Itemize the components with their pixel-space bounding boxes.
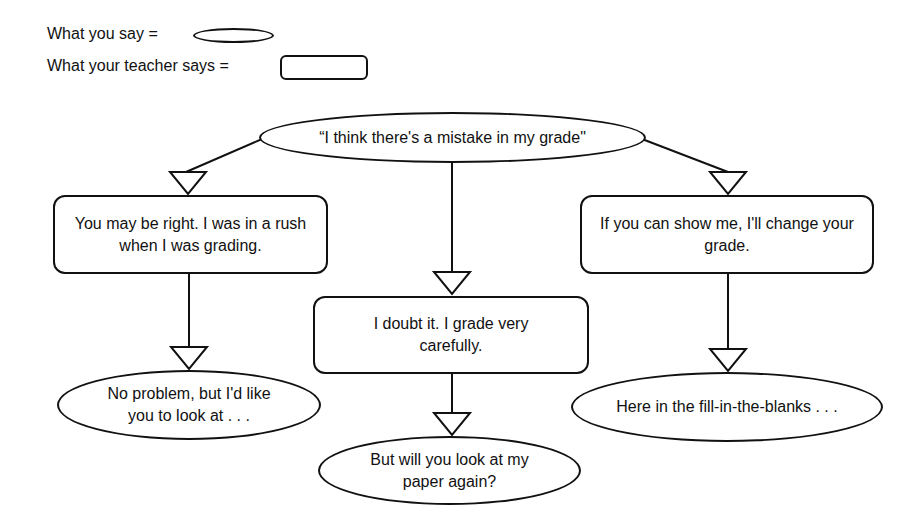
student-reply-right: Here in the fill-in-the-blanks . . .	[571, 372, 883, 442]
teacher-response-left: You may be right. I was in a rush when I…	[53, 195, 328, 274]
student-reply-left: No problem, but I'd like you to look at …	[57, 370, 321, 440]
student-reply-middle: But will you look at my paper again?	[318, 436, 581, 505]
legend-student-label: What you say =	[47, 25, 158, 43]
arrowhead-down-icon	[710, 172, 746, 194]
arrowhead-down-icon	[434, 272, 470, 294]
teacher-response-right: If you can show me, I'll change your gra…	[580, 195, 874, 274]
legend-rounded-rect-icon	[280, 55, 368, 80]
connector-root-right	[642, 139, 728, 172]
arrowhead-down-icon	[171, 347, 207, 369]
teacher-response-middle: I doubt it. I grade very carefully.	[313, 296, 589, 374]
root-student-statement: “I think there's a mistake in my grade"	[259, 112, 646, 163]
arrowhead-down-icon	[170, 172, 206, 194]
legend-ellipse-icon	[193, 28, 274, 43]
connector-root-left	[186, 139, 262, 172]
legend-teacher-label: What your teacher says =	[47, 57, 229, 75]
arrowhead-down-icon	[434, 413, 470, 435]
arrowhead-down-icon	[710, 349, 746, 371]
